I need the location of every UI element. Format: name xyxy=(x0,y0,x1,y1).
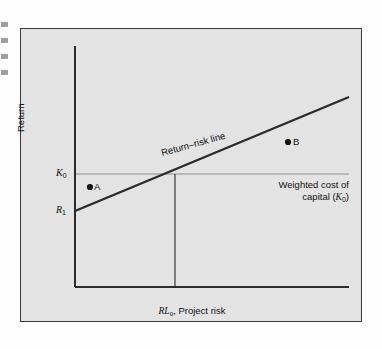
data-point-b xyxy=(285,139,291,145)
tick-k0-symbol: K xyxy=(56,167,63,178)
scan-edge-artifacts xyxy=(0,22,10,92)
figure-panel: Return K0 R1 RL0, Project risk A B Retur… xyxy=(20,28,362,322)
wacc-annotation-line1: Weighted cost of xyxy=(278,179,349,190)
wacc-annotation-line2-suffix: ) xyxy=(346,191,349,202)
x-axis-title-symbol: RL xyxy=(159,306,170,316)
x-axis-title-text: , Project risk xyxy=(173,305,225,316)
x-axis-title: RL0, Project risk xyxy=(21,305,363,318)
figure-root: Return K0 R1 RL0, Project risk A B Retur… xyxy=(0,0,382,349)
y-tick-label-r1: R1 xyxy=(56,204,66,217)
y-axis-title: Return xyxy=(15,103,27,132)
scan-mark xyxy=(1,54,8,59)
tick-r1-subscript: 1 xyxy=(62,209,66,216)
y-tick-label-k0: K0 xyxy=(56,167,67,180)
scan-mark xyxy=(1,22,8,27)
scan-mark xyxy=(1,70,8,75)
tick-k0-subscript: 0 xyxy=(63,172,67,179)
scan-mark xyxy=(1,38,8,43)
wacc-annotation: Weighted cost ofcapital (K0) xyxy=(199,179,349,204)
data-point-a-label: A xyxy=(94,181,100,193)
wacc-annotation-line2-prefix: capital ( xyxy=(302,191,335,202)
plot-canvas xyxy=(21,29,363,323)
data-point-b-label: B xyxy=(293,136,299,148)
data-point-a xyxy=(87,184,93,190)
